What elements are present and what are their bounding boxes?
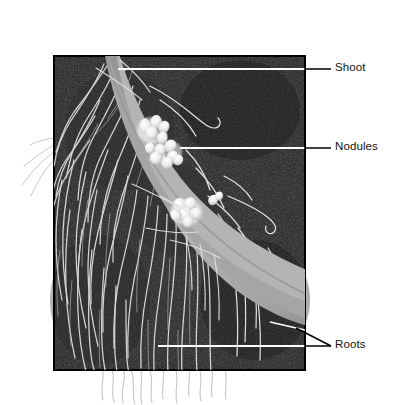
label-roots: Roots <box>335 339 366 351</box>
label-nodules: Nodules <box>335 141 378 153</box>
figure-root-nodules: Shoot Nodules Roots <box>0 0 397 405</box>
label-shoot: Shoot <box>335 62 366 74</box>
